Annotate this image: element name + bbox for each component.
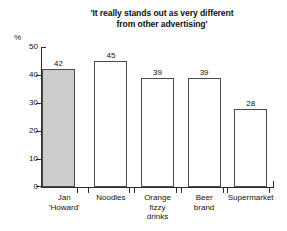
y-axis-tick-label: 40: [29, 71, 38, 79]
y-axis-tick-label: 30: [29, 99, 38, 107]
bar: 42: [42, 69, 75, 187]
bar: 28: [234, 109, 267, 187]
y-axis-tick-label: 10: [29, 155, 38, 163]
y-axis-unit-label: %: [14, 33, 21, 42]
bar-value-label: 28: [246, 99, 255, 108]
bar-value-label: 42: [54, 59, 63, 68]
y-axis-tick-label: 0: [34, 183, 38, 191]
category-label: Supermarket: [221, 193, 280, 203]
bar-value-label: 39: [153, 68, 162, 77]
bar-value-label: 45: [106, 51, 115, 60]
bar-chart: 'It really stands out as very different …: [0, 0, 287, 231]
y-axis-tick: [41, 47, 46, 48]
x-axis-line: [41, 187, 274, 188]
x-axis-end-tick: [273, 181, 274, 188]
chart-title: 'It really stands out as very different …: [56, 8, 268, 30]
y-axis-tick-label: 20: [29, 127, 38, 135]
plot-area: 01020304050 4245393928 Jan 'Howard'Noodl…: [41, 47, 274, 187]
bar: 39: [141, 78, 174, 187]
y-axis-tick-label: 50: [29, 43, 38, 51]
bar: 39: [188, 78, 221, 187]
bar: 45: [94, 61, 127, 187]
bar-value-label: 39: [200, 68, 209, 77]
